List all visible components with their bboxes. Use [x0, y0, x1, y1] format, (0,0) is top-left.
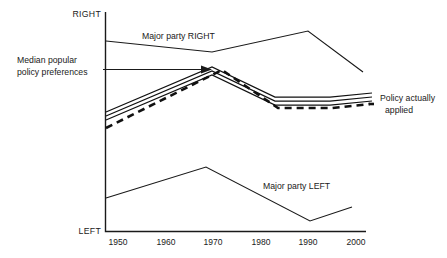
median-preferences-annotation: Median popular policy preferences [17, 55, 212, 77]
y-axis-bottom-label: LEFT [79, 226, 102, 236]
x-tick-label-1960: 1960 [157, 237, 176, 247]
x-tick-label-1980: 1980 [252, 237, 271, 247]
policy-applied-annotation-line1: Policy actually [380, 93, 436, 103]
x-tick-label-1990: 1990 [299, 237, 318, 247]
y-axis-top-label: RIGHT [72, 9, 101, 19]
x-tick-label-2000: 2000 [347, 237, 366, 247]
major-party-left-label: Major party LEFT [263, 181, 331, 191]
x-tick-label-1970: 1970 [204, 237, 223, 247]
median-preferences-annotation-line1: Median popular [17, 55, 77, 65]
series-median-popular-preferences [106, 67, 372, 120]
policy-applied-annotation: Policy actually applied [369, 93, 436, 115]
x-tick-label-1950: 1950 [109, 237, 128, 247]
series-major-party-left [106, 167, 352, 221]
major-party-right-label: Major party RIGHT [142, 31, 216, 41]
median-preferences-annotation-line2: policy preferences [17, 67, 88, 77]
chart-svg: RIGHT LEFT 1950 1960 1970 1980 1990 2000… [0, 0, 447, 258]
policy-applied-annotation-line2: applied [385, 105, 413, 115]
chart-figure: RIGHT LEFT 1950 1960 1970 1980 1990 2000… [0, 0, 447, 258]
